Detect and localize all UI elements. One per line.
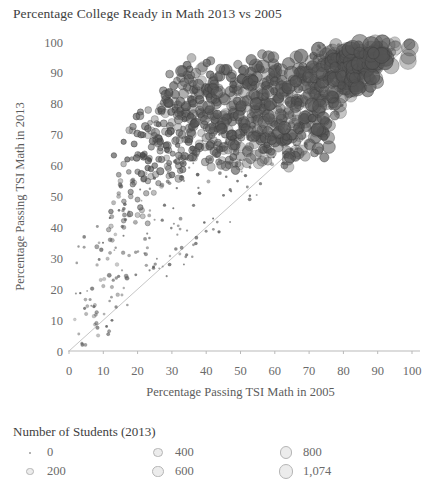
data-point: [110, 238, 114, 242]
legend-item[interactable]: 400: [141, 443, 269, 462]
data-point: [168, 181, 172, 185]
data-point: [111, 153, 116, 158]
data-point: [229, 221, 231, 223]
data-point: [144, 252, 148, 256]
data-point: [218, 133, 221, 136]
data-point: [191, 256, 194, 259]
data-point: [283, 83, 286, 86]
data-point: [158, 156, 164, 162]
data-point: [98, 241, 101, 244]
data-point: [173, 160, 177, 164]
data-point: [158, 146, 163, 151]
data-point: [235, 118, 241, 124]
data-point: [117, 194, 121, 198]
data-point: [236, 101, 246, 111]
data-point: [264, 106, 268, 110]
data-point: [124, 218, 127, 221]
data-point: [345, 86, 348, 89]
y-tick-label: 90: [51, 66, 64, 80]
data-point: [170, 227, 173, 230]
data-point: [181, 161, 184, 164]
data-point: [244, 116, 248, 120]
legend-bubble-swatch: [269, 464, 303, 478]
data-point: [318, 46, 321, 49]
plot-area: 0102030405060708090100010203040506070809…: [0, 0, 435, 420]
data-point: [82, 235, 86, 239]
data-point: [351, 88, 354, 91]
data-point: [298, 89, 300, 91]
data-point: [131, 178, 135, 182]
data-point: [223, 145, 226, 148]
data-point: [216, 64, 225, 73]
data-point: [118, 183, 122, 187]
data-point: [247, 135, 251, 139]
data-point: [308, 131, 311, 134]
data-point: [274, 121, 277, 124]
data-point: [368, 47, 380, 59]
data-point: [282, 162, 285, 165]
data-point: [251, 81, 259, 89]
data-point: [361, 83, 365, 87]
data-point: [166, 275, 168, 277]
legend-bubble-swatch: [13, 452, 47, 454]
data-point: [246, 54, 256, 64]
data-point: [288, 128, 290, 130]
x-tick-label: 70: [303, 364, 316, 378]
data-point: [95, 321, 99, 325]
data-point: [75, 292, 77, 294]
data-point: [121, 139, 126, 144]
data-point: [148, 237, 151, 240]
x-tick-label: 60: [269, 364, 282, 378]
data-point: [123, 202, 127, 206]
data-point: [96, 334, 100, 338]
data-point: [336, 112, 340, 116]
data-point: [163, 204, 166, 207]
data-point: [185, 157, 188, 160]
data-point: [161, 219, 164, 222]
legend-item[interactable]: 0: [13, 443, 141, 462]
data-point: [365, 75, 368, 78]
legend-item[interactable]: 800: [269, 443, 397, 462]
data-point: [111, 200, 115, 204]
data-point: [320, 132, 322, 134]
data-point: [143, 191, 149, 197]
data-point: [192, 243, 195, 246]
data-point: [312, 75, 315, 78]
data-point: [349, 72, 360, 83]
data-point: [179, 217, 183, 221]
data-point: [356, 43, 360, 47]
data-point: [121, 225, 124, 228]
data-point: [138, 170, 145, 177]
data-point: [191, 119, 200, 128]
data-point: [108, 251, 111, 254]
data-point: [222, 194, 225, 197]
data-point: [301, 125, 304, 128]
data-point: [176, 187, 178, 189]
data-point: [79, 292, 81, 294]
data-point: [211, 87, 223, 99]
data-point: [148, 144, 154, 150]
data-point: [340, 81, 342, 83]
data-point: [136, 112, 144, 120]
data-point: [267, 151, 269, 153]
data-point: [315, 147, 323, 155]
x-tick-label: 0: [66, 364, 72, 378]
data-point: [83, 307, 86, 310]
data-point: [128, 210, 130, 212]
legend-bubble-swatch: [141, 466, 175, 477]
legend-bubble-swatch: [13, 468, 47, 475]
legend-item[interactable]: 600: [141, 462, 269, 481]
data-point: [187, 130, 196, 139]
legend-label: 1,074: [303, 464, 331, 479]
data-point: [145, 132, 151, 138]
data-point: [173, 223, 175, 225]
x-tick-label: 20: [131, 364, 144, 378]
data-point: [131, 141, 137, 147]
y-tick-label: 20: [51, 283, 64, 297]
data-point: [148, 167, 153, 172]
x-tick-label: 50: [234, 364, 247, 378]
legend-bubble-swatch: [141, 448, 175, 458]
legend-item[interactable]: 1,074: [269, 462, 397, 481]
legend-item[interactable]: 200: [13, 462, 141, 481]
data-point: [365, 69, 368, 72]
